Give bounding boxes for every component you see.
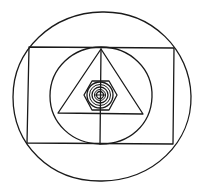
diagram-canvas: Nested geometric figure — [0, 0, 203, 192]
vertical-line — [100, 49, 101, 144]
outer-circle — [13, 12, 191, 181]
geometric-drawing — [0, 0, 203, 192]
